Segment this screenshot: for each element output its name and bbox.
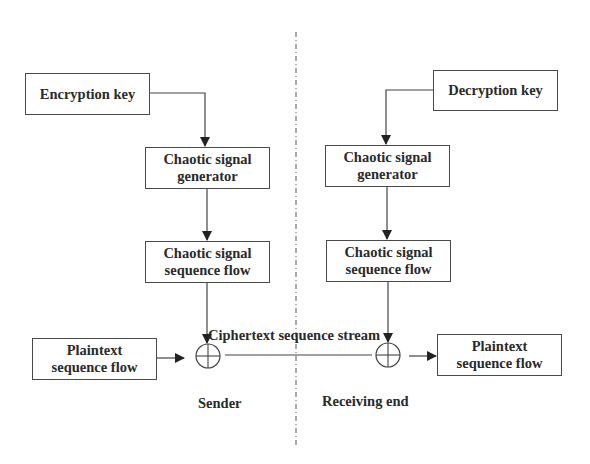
receiver-generator-line1: Chaotic signal xyxy=(343,149,431,166)
sender-label: Sender xyxy=(198,395,242,412)
encryption-key-label: Encryption key xyxy=(40,86,135,103)
arrow-dec-key-to-generator xyxy=(386,90,433,144)
receiver-sequence-line1: Chaotic signal xyxy=(344,244,432,261)
sender-plaintext-box: Plaintext sequence flow xyxy=(32,338,157,380)
receiver-plaintext-box: Plaintext sequence flow xyxy=(437,334,562,376)
receiver-chaotic-generator-box: Chaotic signal generator xyxy=(325,145,450,187)
receiver-chaotic-sequence-box: Chaotic signal sequence flow xyxy=(326,240,451,282)
sender-plaintext-line1: Plaintext xyxy=(67,342,123,359)
receiving-end-label: Receiving end xyxy=(322,393,409,410)
sender-chaotic-sequence-box: Chaotic signal sequence flow xyxy=(145,241,270,283)
decryption-key-box: Decryption key xyxy=(433,70,558,111)
xor-icon-sender xyxy=(196,344,220,368)
sender-sequence-line1: Chaotic signal xyxy=(163,245,251,262)
decryption-key-label: Decryption key xyxy=(448,82,543,99)
sender-generator-line2: generator xyxy=(177,168,237,185)
sender-plaintext-line2: sequence flow xyxy=(52,359,138,376)
receiver-generator-line2: generator xyxy=(357,166,417,183)
encryption-key-box: Encryption key xyxy=(25,73,150,115)
receiver-sequence-line2: sequence flow xyxy=(346,261,432,278)
arrow-enc-key-to-generator xyxy=(150,93,205,146)
sender-generator-line1: Chaotic signal xyxy=(163,151,251,168)
receiver-plaintext-line1: Plaintext xyxy=(472,338,528,355)
sender-chaotic-generator-box: Chaotic signal generator xyxy=(145,147,270,189)
sender-sequence-line2: sequence flow xyxy=(165,262,251,279)
xor-icon-receiver xyxy=(376,343,400,367)
ciphertext-stream-label: Ciphertext sequence stream xyxy=(208,327,380,344)
receiver-plaintext-line2: sequence flow xyxy=(457,355,543,372)
